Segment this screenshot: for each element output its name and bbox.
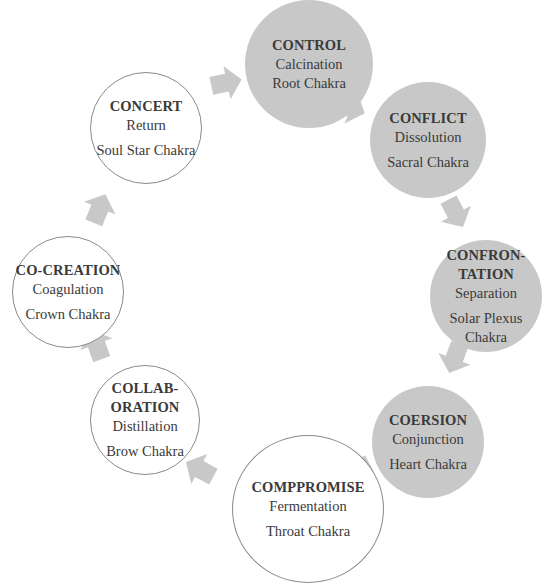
node-process: Coagulation [33, 280, 104, 299]
node-title-line1: CONFRON- [447, 246, 526, 265]
node-process: Return [126, 116, 165, 135]
node-process: Separation [455, 284, 517, 303]
cycle-diagram: CONTROL Calcination Root Chakra CONFLICT… [0, 0, 548, 586]
node-process: Conjunction [392, 430, 464, 449]
node-chakra: Root Chakra [272, 74, 346, 93]
node-co-creation: CO-CREATION Coagulation Crown Chakra [12, 236, 124, 348]
arrow-icon [208, 63, 245, 103]
node-chakra: Sacral Chakra [387, 153, 469, 172]
node-compromise: COMPPROMISE Fermentation Throat Chakra [232, 435, 384, 583]
node-title: CO-CREATION [16, 261, 121, 280]
node-chakra-line2: Chakra [465, 328, 507, 347]
node-conflict: CONFLICT Dissolution Sacral Chakra [370, 82, 486, 198]
node-chakra: Crown Chakra [26, 305, 111, 324]
node-chakra: Throat Chakra [266, 522, 350, 541]
node-collaboration: COLLAB- ORATION Distillation Brow Chakra [90, 365, 200, 475]
node-chakra-line1: Solar Plexus [450, 309, 523, 328]
node-title-line2: ORATION [111, 398, 180, 417]
arrow-icon [433, 192, 478, 235]
node-control: CONTROL Calcination Root Chakra [245, 0, 373, 128]
node-title-line2: TATION [458, 265, 514, 284]
node-process: Distillation [112, 417, 177, 436]
node-chakra: Soul Star Chakra [96, 141, 195, 160]
node-chakra: Heart Chakra [389, 455, 467, 474]
node-title: CONFLICT [389, 109, 466, 128]
node-title-line1: COLLAB- [112, 379, 179, 398]
node-concert: CONCERT Return Soul Star Chakra [90, 72, 202, 184]
node-title: COMPPROMISE [251, 478, 364, 497]
node-process: Calcination [276, 55, 343, 74]
node-coersion: COERSION Conjunction Heart Chakra [372, 386, 484, 498]
node-process: Dissolution [395, 128, 462, 147]
node-chakra: Brow Chakra [106, 442, 184, 461]
node-title: COERSION [389, 411, 467, 430]
arrow-icon [78, 188, 121, 229]
node-process: Fermentation [269, 497, 346, 516]
node-title: CONCERT [110, 97, 183, 116]
node-confrontation: CONFRON- TATION Separation Solar Plexus … [430, 240, 542, 352]
node-title: CONTROL [272, 36, 346, 55]
